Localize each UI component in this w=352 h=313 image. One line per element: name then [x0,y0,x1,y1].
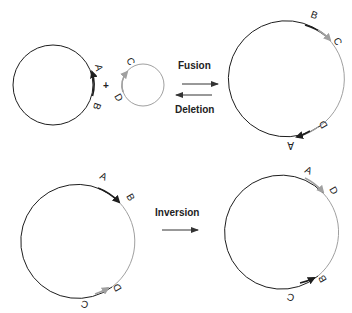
segment-label-a: A [93,63,105,72]
segment-label-c: C [331,36,344,48]
segment-label-d: D [112,92,125,104]
segment-label-b: B [91,101,104,111]
circle-outline [13,45,93,125]
segment-label-d: D [327,185,340,197]
segment-label-a: A [303,164,314,177]
pre-inversion-circle: A B D C [21,170,137,311]
segment-label-a: A [287,140,294,151]
segment-arrow-icon [297,131,310,137]
gray-arc [112,202,135,287]
deletion-label: Deletion [175,104,214,115]
fusion-deletion-arrows: Fusion Deletion [175,60,218,115]
fused-circle-bcda: B C D A [228,9,344,151]
segment-arrow-icon [122,72,127,92]
segment-label-a: A [98,170,109,183]
gray-arc [318,193,339,276]
donor-circle-cd: C D [112,56,164,107]
black-arc [228,21,322,137]
segment-label-c: C [80,298,90,310]
segment-label-b: B [316,273,329,285]
segment-arrow-icon [318,30,330,40]
inversion-label: Inversion [155,207,199,218]
black-arc [225,175,323,289]
segment-label-b: B [309,9,319,22]
segment-label-b: B [124,192,137,204]
segment-label-d: D [317,119,330,131]
segment-label-d: D [111,282,124,294]
plus-sign: + [103,80,109,91]
fusion-label: Fusion [178,60,211,71]
recombination-diagram: A B + C D Fusion Deletion B C D A [0,0,352,313]
black-arc [21,184,119,298]
gray-arc [320,33,344,126]
segment-label-c: C [286,291,296,303]
circle-outline [122,64,164,106]
post-inversion-circle: A D B C [225,164,341,304]
donor-circle-ab: A B [13,45,105,125]
segment-arrow-icon [98,188,119,202]
inversion-arrow-group: Inversion [155,207,199,230]
